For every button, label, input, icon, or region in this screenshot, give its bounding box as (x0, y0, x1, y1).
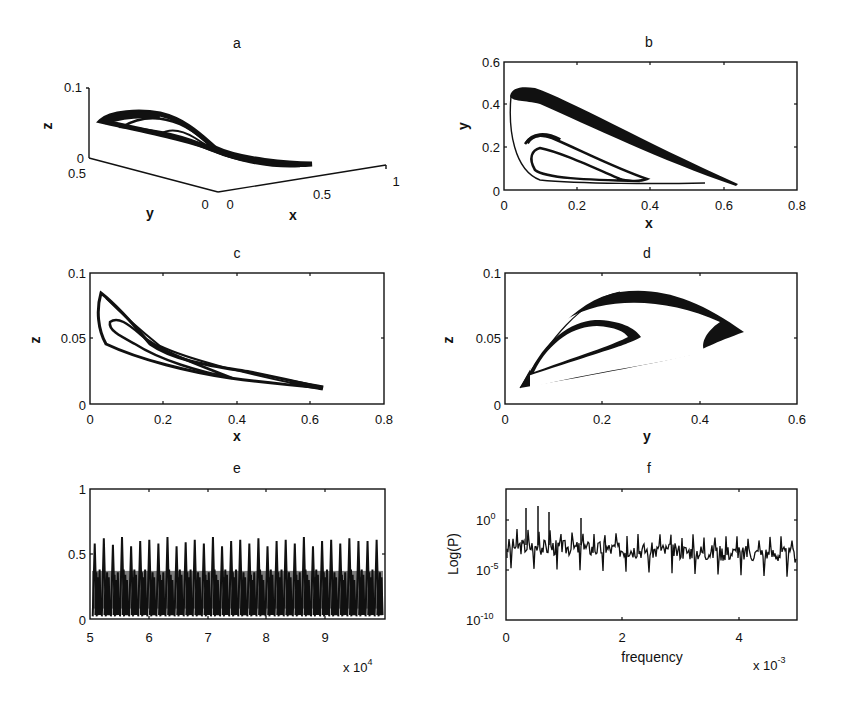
panel-d-title: d (643, 245, 651, 261)
svg-text:100: 100 (476, 511, 495, 528)
svg-text:0.5: 0.5 (313, 187, 331, 202)
svg-text:0.05: 0.05 (476, 331, 501, 346)
y-axis-label: z (440, 337, 456, 344)
svg-text:1: 1 (392, 174, 399, 189)
svg-text:0.8: 0.8 (788, 198, 806, 213)
panel-f-title: f (647, 460, 651, 476)
svg-text:0.2: 0.2 (568, 198, 586, 213)
svg-text:0: 0 (494, 398, 501, 413)
panel-a: a 0.1 0 0.5 0 0 0.5 1 z y x (39, 35, 400, 223)
svg-text:0.2: 0.2 (482, 140, 500, 155)
y-axis-label: y (455, 122, 471, 130)
svg-text:0.4: 0.4 (228, 412, 246, 427)
svg-text:1: 1 (79, 482, 86, 497)
svg-text:0: 0 (493, 184, 500, 199)
svg-text:0.6: 0.6 (301, 412, 319, 427)
panel-a-title: a (233, 35, 241, 51)
svg-text:0.2: 0.2 (154, 412, 172, 427)
svg-text:0: 0 (201, 197, 208, 212)
panel-c: c 0.1 0.05 0 0 0.2 0.4 0.6 0.8 x z (27, 245, 393, 444)
svg-text:9: 9 (321, 630, 328, 645)
svg-text:0: 0 (226, 197, 233, 212)
svg-text:0.4: 0.4 (482, 97, 500, 112)
svg-text:0: 0 (79, 613, 86, 628)
svg-text:0.6: 0.6 (482, 55, 500, 70)
svg-text:0: 0 (86, 412, 93, 427)
svg-text:0.2: 0.2 (593, 412, 611, 427)
x-multiplier: x 104 (343, 657, 373, 675)
svg-text:8: 8 (262, 630, 269, 645)
svg-text:0.1: 0.1 (483, 266, 501, 281)
panel-e-title: e (233, 460, 241, 476)
power-spectrum (507, 506, 796, 577)
y-axis-line (89, 158, 218, 192)
svg-text:10-5: 10-5 (476, 561, 498, 578)
plot-area-f (506, 489, 797, 620)
svg-text:7: 7 (204, 630, 211, 645)
trajectory-yz (520, 291, 744, 388)
x-axis-label: y (643, 428, 651, 444)
svg-text:0.05: 0.05 (61, 331, 86, 346)
svg-text:4: 4 (735, 630, 742, 645)
attractor-3d-trajectory (101, 112, 312, 166)
svg-text:2: 2 (618, 630, 625, 645)
svg-text:6: 6 (145, 630, 152, 645)
x-axis-label: x (233, 428, 241, 444)
svg-text:0: 0 (79, 398, 86, 413)
panel-f: f 100 10-5 10-10 0 2 4 frequency x 10-3 … (445, 460, 797, 673)
trajectory-xz (98, 293, 323, 388)
x-axis-line (218, 165, 386, 192)
svg-text:0.1: 0.1 (68, 266, 86, 281)
y-axis-label: z (27, 337, 43, 344)
panel-e: e 1 0.5 0 5 6 7 8 9 x 104 (68, 460, 385, 675)
plot-area-b (504, 62, 797, 190)
svg-text:0: 0 (500, 198, 507, 213)
svg-text:0.8: 0.8 (375, 412, 393, 427)
svg-text:0.1: 0.1 (64, 80, 82, 95)
panel-b-title: b (645, 34, 653, 50)
svg-text:10-10: 10-10 (466, 611, 493, 628)
svg-text:0.4: 0.4 (641, 198, 659, 213)
panel-c-title: c (234, 245, 241, 261)
x-axis-label: frequency (621, 649, 682, 665)
y-axis-label: Log(P) (445, 533, 461, 575)
x-axis-label: x (645, 215, 653, 231)
svg-text:0: 0 (501, 412, 508, 427)
x-multiplier: x 10-3 (753, 655, 786, 673)
svg-text:0.6: 0.6 (788, 412, 806, 427)
svg-text:0.4: 0.4 (691, 412, 709, 427)
svg-text:0.6: 0.6 (715, 198, 733, 213)
y-axis-label: y (146, 205, 154, 221)
svg-text:0.5: 0.5 (68, 547, 86, 562)
plot-area-c (90, 273, 384, 404)
panel-d: d 0.1 0.05 0 0 0.2 0.4 0.6 y z (440, 245, 806, 444)
trajectory-xy (510, 87, 738, 186)
svg-text:5: 5 (86, 630, 93, 645)
panel-b: b 0.6 0.4 0.2 0 0 0.2 0.4 0.6 0.8 x y (455, 34, 806, 231)
svg-text:0: 0 (77, 151, 84, 166)
time-series-x (92, 537, 383, 616)
svg-text:0: 0 (502, 630, 509, 645)
x-axis-label: x (289, 207, 297, 223)
svg-text:0.5: 0.5 (68, 166, 86, 181)
z-axis-label: z (39, 123, 55, 130)
